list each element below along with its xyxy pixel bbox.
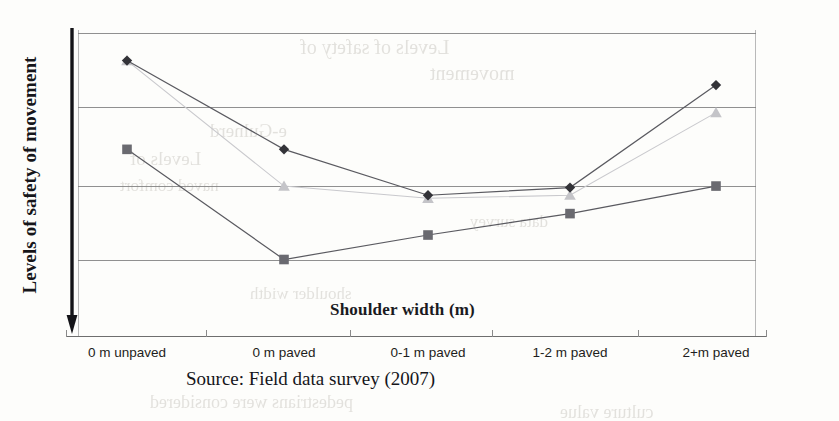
square-marker [565,209,575,219]
x-axis-category-label: 0 m unpaved [88,345,166,360]
x-axis-category-label: 0 m paved [252,345,315,360]
x-axis-title: Shoulder width (m) [330,300,475,320]
down-arrow-icon [66,28,78,334]
series-line [127,61,716,196]
x-axis-tick [206,330,207,337]
ghost-text: culture value [560,402,653,421]
square-marker [423,230,433,240]
x-axis-category-label: 0-1 m paved [390,345,465,360]
series-3 [121,55,722,203]
triangle-marker [278,180,290,190]
x-axis-category-label: 1-2 m paved [532,345,607,360]
x-axis-tick [66,330,67,337]
ghost-text: pedestrians were considered [150,392,353,413]
source-note: Source: Field data survey (2007) [186,368,435,390]
x-axis-line [66,336,766,337]
diamond-marker [279,144,289,154]
square-marker [711,181,721,191]
x-axis-tick [350,330,351,337]
plot-area [78,30,756,336]
y-axis-label-block: Levels of safety of movement [2,18,46,348]
x-axis-category-label: 2+m paved [682,345,749,360]
series-line [127,149,716,259]
y-axis-label: Levels of safety of movement [19,19,41,331]
x-axis-tick [766,330,767,337]
series-2 [122,145,721,265]
x-axis-tick [492,330,493,337]
data-series-layer [78,30,756,336]
diamond-marker [423,190,433,200]
triangle-marker [710,107,722,117]
x-axis-tick [638,330,639,337]
figure-line-chart: Levels of safety ofmovemente-GulnerdLeve… [0,0,839,421]
series-line [127,61,716,199]
diamond-marker [711,80,721,90]
square-marker [279,255,289,265]
diamond-marker [565,182,575,192]
square-marker [122,145,132,155]
